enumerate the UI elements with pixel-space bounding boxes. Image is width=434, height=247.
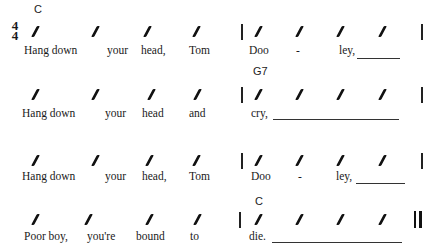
- beat-slash-icon: [91, 155, 100, 166]
- lyric: and: [189, 107, 206, 119]
- barline: [241, 24, 243, 40]
- barline: [421, 87, 423, 103]
- lyric: -: [298, 170, 302, 182]
- lyric: Doo: [249, 44, 269, 56]
- beat-slash-icon: [193, 89, 202, 100]
- lyric: ley,: [336, 170, 352, 182]
- beat-slash-icon: [145, 155, 154, 166]
- beat-slash-icon: [31, 214, 40, 225]
- time-signature: 4 4: [10, 21, 20, 41]
- barline: [421, 153, 423, 169]
- lyric: Hang down: [24, 44, 77, 56]
- barline: [239, 212, 241, 228]
- beat-slash-icon: [295, 214, 304, 225]
- beat-slash-icon: [143, 26, 152, 37]
- lyric: cry,: [251, 107, 268, 119]
- beat-slash-icon: [192, 26, 201, 37]
- lyric: Tom: [189, 44, 210, 56]
- lyric: die.: [249, 230, 266, 242]
- beat-slash-icon: [254, 155, 263, 166]
- barline: [241, 87, 243, 103]
- lyric: your: [107, 44, 128, 56]
- lyric: head,: [141, 44, 166, 56]
- beat-slash-icon: [336, 155, 345, 166]
- beat-slash-icon: [295, 155, 304, 166]
- beat-slash-icon: [378, 89, 387, 100]
- beat-slash-icon: [336, 214, 345, 225]
- beat-slash-icon: [147, 89, 156, 100]
- lyric-extender-line: [273, 119, 399, 120]
- beat-slash-icon: [192, 155, 201, 166]
- beat-slash-icon: [254, 214, 263, 225]
- lyric: Doo: [251, 170, 271, 182]
- beat-slash-icon: [91, 26, 100, 37]
- lyric: Tom: [189, 170, 210, 182]
- beat-slash-icon: [31, 26, 40, 37]
- lyric: Hang down: [22, 170, 75, 182]
- lyric: your: [105, 170, 126, 182]
- lyric: you're: [87, 230, 115, 242]
- chord-symbol: C: [255, 195, 263, 207]
- chord-symbol: G7: [253, 65, 268, 77]
- beat-slash-icon: [295, 89, 304, 100]
- lyric: to: [190, 230, 199, 242]
- lyric: Poor boy,: [24, 230, 68, 242]
- lyric: Hang down: [22, 107, 75, 119]
- chord-symbol: C: [34, 3, 42, 15]
- beat-slash-icon: [145, 214, 154, 225]
- lyric: bound: [136, 230, 165, 242]
- beat-slash-icon: [254, 26, 263, 37]
- beat-slash-icon: [378, 214, 387, 225]
- lyric: -: [296, 44, 300, 56]
- beat-slash-icon: [91, 89, 100, 100]
- beat-slash-icon: [31, 155, 40, 166]
- time-signature-bottom: 4: [10, 31, 20, 41]
- beat-slash-icon: [254, 89, 263, 100]
- beat-slash-icon: [378, 26, 387, 37]
- lyric: your: [105, 107, 126, 119]
- beat-slash-icon: [336, 89, 345, 100]
- lyric-extender-line: [356, 183, 405, 184]
- lyric: head,: [142, 170, 167, 182]
- barline: [241, 153, 243, 169]
- beat-slash-icon: [84, 214, 93, 225]
- beat-slash-icon: [193, 214, 202, 225]
- barline: [421, 24, 423, 40]
- beat-slash-icon: [378, 155, 387, 166]
- lyric: head: [142, 107, 164, 119]
- lyric-extender-line: [357, 58, 400, 59]
- beat-slash-icon: [295, 26, 304, 37]
- beat-slash-icon: [31, 89, 40, 100]
- lyric: ley,: [339, 44, 355, 56]
- final-double-barline: [414, 211, 421, 228]
- beat-slash-icon: [336, 26, 345, 37]
- lyric-extender-line: [272, 242, 402, 243]
